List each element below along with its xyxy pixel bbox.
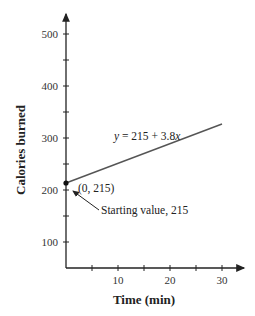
y-tick-label: 200 xyxy=(42,184,59,196)
equation-label: y = 215 + 3.8x xyxy=(113,130,181,143)
x-tick-label: 10 xyxy=(113,274,125,286)
annotation-text: Starting value, 215 xyxy=(101,204,188,217)
x-tick-label: 30 xyxy=(217,274,229,286)
y-tick-label: 300 xyxy=(42,132,59,144)
line-chart: 100 200 300 400 500 10 20 30 Time (min) … xyxy=(0,0,255,316)
point-label: (0, 215) xyxy=(78,182,115,195)
y-axis-title: Calories burned xyxy=(13,104,28,195)
y-tick-label: 400 xyxy=(42,80,59,92)
x-tick-label: 20 xyxy=(165,274,177,286)
y-tick-label: 100 xyxy=(42,236,59,248)
start-point xyxy=(63,180,68,185)
x-axis-title: Time (min) xyxy=(113,292,175,307)
y-tick-label: 500 xyxy=(42,28,59,40)
